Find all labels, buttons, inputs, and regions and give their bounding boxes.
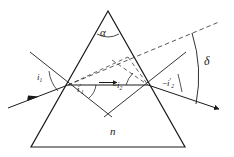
apex-angle-label: α [100,27,106,38]
angle-label-refraction-2: −i′2 [162,78,174,89]
figure-canvas [0,0,234,157]
angle-sub-i1: 1 [39,77,42,83]
emergent-ray [148,85,219,109]
angle-sub-i1-prime: 1 [81,89,84,95]
prism-refraction-figure: α δ n i1 i′1 −i2 −i′2 [0,0,234,157]
angle-sub-i2: 2 [120,85,123,91]
angle-arc-i1-prime [89,85,96,98]
refractive-index-label: n [110,126,116,137]
angle-label-incidence-1: i1 [37,72,42,83]
angle-arc-i1 [49,71,58,91]
deviation-angle-arc [192,33,199,104]
angle-label-incidence-2: −i2 [112,80,122,91]
incident-ray-extension-dashed [68,22,219,85]
angle-arc-i2 [126,73,133,85]
deviation-angle-label: δ [204,55,210,67]
angle-arc-i2-prime [178,74,182,92]
angle-label-refraction-1: i′1 [77,84,84,95]
angle-sub-i2-prime: 2 [171,83,174,89]
